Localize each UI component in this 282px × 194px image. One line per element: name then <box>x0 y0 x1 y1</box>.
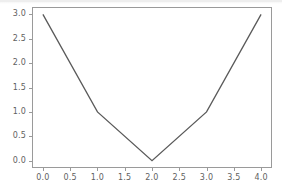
x-tick-label: 1.5 <box>110 173 140 182</box>
x-tick-mark <box>70 168 71 171</box>
x-tick-label: 1.0 <box>82 173 112 182</box>
y-tick-mark <box>29 14 32 15</box>
x-tick-label: 3.0 <box>192 173 222 182</box>
x-tick-mark <box>234 168 235 171</box>
x-tick-label: 2.0 <box>137 173 167 182</box>
y-tick-mark <box>29 88 32 89</box>
y-tick-mark <box>29 112 32 113</box>
y-tick-label: 2.0 <box>2 58 26 67</box>
y-tick-mark <box>29 161 32 162</box>
x-tick-mark <box>152 168 153 171</box>
line-series-path <box>43 14 261 160</box>
y-tick-mark <box>29 39 32 40</box>
x-tick-mark <box>97 168 98 171</box>
y-tick-label: 0.5 <box>2 131 26 140</box>
y-tick-mark <box>29 136 32 137</box>
x-tick-mark <box>207 168 208 171</box>
x-tick-label: 0.5 <box>55 173 85 182</box>
y-tick-label: 0.0 <box>2 156 26 165</box>
x-tick-label: 0.0 <box>28 173 58 182</box>
figure-top-edge-line <box>0 0 282 2</box>
y-tick-label: 3.0 <box>2 9 26 18</box>
x-tick-mark <box>261 168 262 171</box>
line-series-layer <box>32 7 272 168</box>
x-tick-mark <box>43 168 44 171</box>
x-tick-mark <box>125 168 126 171</box>
x-tick-label: 3.5 <box>219 173 249 182</box>
chart-figure: 0.00.51.01.52.02.53.03.54.0 0.00.51.01.5… <box>0 0 282 194</box>
x-tick-mark <box>179 168 180 171</box>
y-tick-label: 1.0 <box>2 107 26 116</box>
x-tick-label: 4.0 <box>246 173 276 182</box>
y-tick-mark <box>29 63 32 64</box>
x-tick-label: 2.5 <box>164 173 194 182</box>
y-tick-label: 1.5 <box>2 83 26 92</box>
y-tick-label: 2.5 <box>2 34 26 43</box>
